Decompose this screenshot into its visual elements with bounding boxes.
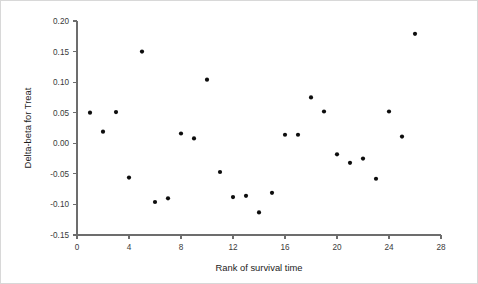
data-point xyxy=(335,152,339,156)
data-point xyxy=(192,136,196,140)
data-points-layer xyxy=(88,32,417,215)
x-tick-label: 16 xyxy=(280,243,290,252)
y-tick-label: 0.15 xyxy=(53,48,69,57)
data-point xyxy=(153,200,157,204)
data-point xyxy=(218,170,222,174)
data-point xyxy=(166,196,170,200)
x-tick-label: 20 xyxy=(332,243,342,252)
data-point xyxy=(270,191,274,195)
x-axis-ticks: 0481216202428 xyxy=(75,235,446,252)
x-tick-label: 24 xyxy=(384,243,394,252)
y-axis-ticks: -0.15-0.10-0.050.000.050.100.150.20 xyxy=(50,17,77,240)
data-point xyxy=(400,134,404,138)
plot-axes xyxy=(77,21,441,235)
data-point xyxy=(88,111,92,115)
data-point xyxy=(257,210,261,214)
y-tick-label: 0.20 xyxy=(53,17,69,26)
y-tick-label: -0.15 xyxy=(50,231,69,240)
data-point xyxy=(179,131,183,135)
y-tick-label: 0.05 xyxy=(53,109,69,118)
y-tick-label: -0.05 xyxy=(50,170,69,179)
x-tick-label: 12 xyxy=(228,243,238,252)
chart-page: -0.15-0.10-0.050.000.050.100.150.20 0481… xyxy=(0,0,478,284)
data-point xyxy=(244,194,248,198)
scatter-plot: -0.15-0.10-0.050.000.050.100.150.20 0481… xyxy=(1,1,478,284)
x-tick-label: 8 xyxy=(179,243,184,252)
data-point xyxy=(413,32,417,36)
data-point xyxy=(322,109,326,113)
x-axis-title: Rank of survival time xyxy=(215,262,302,273)
y-tick-label: 0.00 xyxy=(53,139,69,148)
x-tick-label: 4 xyxy=(127,243,132,252)
data-point xyxy=(205,78,209,82)
data-point xyxy=(387,109,391,113)
data-point xyxy=(127,175,131,179)
data-point xyxy=(114,110,118,114)
data-point xyxy=(296,133,300,137)
x-tick-label: 0 xyxy=(75,243,80,252)
data-point xyxy=(101,130,105,134)
data-point xyxy=(140,49,144,53)
data-point xyxy=(309,95,313,99)
data-point xyxy=(361,156,365,160)
y-tick-label: 0.10 xyxy=(53,78,69,87)
data-point xyxy=(283,133,287,137)
x-tick-label: 28 xyxy=(436,243,446,252)
data-point xyxy=(231,195,235,199)
y-tick-label: -0.10 xyxy=(50,200,69,209)
data-point xyxy=(374,177,378,181)
y-axis-title: Delta-beta for Treat xyxy=(22,87,33,168)
data-point xyxy=(348,161,352,165)
